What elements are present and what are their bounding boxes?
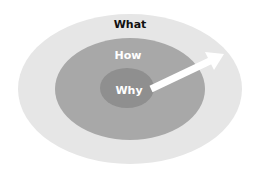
- what-label: What: [114, 18, 147, 31]
- how-label: How: [115, 49, 142, 62]
- why-label: Why: [115, 84, 142, 97]
